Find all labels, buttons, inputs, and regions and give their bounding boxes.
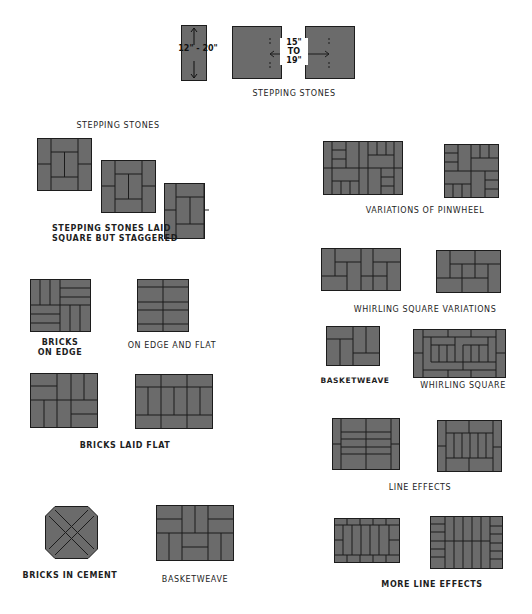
whirling-square-variation-2 (436, 250, 501, 293)
label-stepping-stones-staggered: STEPPING STONES LAID SQUARE BUT STAGGERE… (52, 224, 164, 244)
bricks-in-cement-pattern (45, 506, 98, 559)
basketweave-pattern-right (326, 326, 380, 366)
label-whirling-square-variations: WHIRLING SQUARE VARIATIONS (350, 305, 500, 315)
label-bricks-in-cement: BRICKS IN CEMENT (20, 571, 120, 581)
line-effects-pattern-1 (332, 418, 400, 470)
label-stepping-stones: STEPPING STONES (68, 121, 168, 131)
line-effects-pattern-2 (437, 420, 502, 472)
label-more-line-effects: MORE LINE EFFECTS (372, 580, 492, 590)
label-bricks-on-edge-line-1: BRICKS (25, 338, 95, 348)
label-staggered-line-1: STEPPING STONES LAID (52, 224, 164, 234)
label-bricks-on-edge: BRICKS ON EDGE (25, 338, 95, 358)
stone-size-dimension: 12" - 20" (176, 44, 220, 53)
bricks-laid-flat-pattern-1 (30, 373, 98, 428)
more-line-effects-pattern-1 (334, 518, 400, 563)
label-stepping-stones-top: STEPPING STONES (244, 89, 344, 99)
bricks-laid-flat-pattern-2 (135, 374, 213, 429)
whirling-square-pattern (413, 329, 506, 378)
spacing-line-1: 15" (280, 38, 308, 47)
spacing-line-3: 19" (280, 56, 308, 65)
basketweave-pattern-left (156, 505, 234, 561)
bricks-on-edge-pattern (30, 279, 91, 332)
stepping-stones-pattern-1 (37, 138, 92, 191)
stepping-stone-left (232, 26, 282, 79)
spacing-line-2: TO (280, 47, 308, 56)
label-bricks-laid-flat: BRICKS LAID FLAT (70, 441, 180, 451)
label-on-edge-and-flat: ON EDGE AND FLAT (122, 341, 222, 351)
stepping-stones-pattern-2 (101, 160, 156, 213)
label-line-effects: LINE EFFECTS (370, 483, 470, 493)
more-line-effects-pattern-2 (430, 516, 503, 569)
label-whirling-square: WHIRLING SQUARE (413, 381, 513, 391)
stepping-stone-side-view (181, 25, 207, 81)
pinwheel-variation-2 (444, 144, 499, 198)
label-staggered-line-2: SQUARE BUT STAGGERED (52, 234, 164, 244)
label-bricks-on-edge-line-2: ON EDGE (25, 348, 95, 358)
pinwheel-variation-1 (323, 141, 403, 195)
spacing-dimension: 15" TO 19" (280, 38, 308, 65)
label-variations-of-pinwheel: VARIATIONS OF PINWHEEL (355, 206, 495, 216)
stepping-stone-right (305, 26, 355, 79)
label-basketweave-left: BASKETWEAVE (150, 575, 240, 585)
whirling-square-variation-1 (321, 248, 401, 291)
on-edge-and-flat-pattern (137, 279, 189, 332)
label-basketweave-right: BASKETWEAVE (320, 376, 390, 386)
